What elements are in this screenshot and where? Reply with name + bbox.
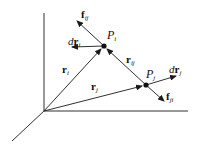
label-dr-j: drj: [169, 63, 181, 77]
y-axis: [12, 111, 44, 141]
vector-f-ij: [77, 21, 104, 46]
label-p-i: Pi: [106, 28, 116, 43]
label-f-ij: fij: [81, 8, 89, 22]
particle-pj-dot: [143, 82, 148, 87]
label-dr-i: dri: [68, 35, 80, 49]
label-r-ij: rij: [126, 53, 135, 67]
label-f-ji: fji: [166, 90, 174, 104]
coordinate-axes: [12, 13, 188, 141]
particle-pi-dot: [101, 43, 106, 48]
particle-vector-diagram: fij dri Pi rij ri Pj drj rj fji: [0, 0, 201, 145]
label-r-j: rj: [91, 80, 98, 94]
label-p-j: Pj: [145, 67, 155, 82]
label-r-i: ri: [62, 63, 69, 77]
vector-f-ji: [146, 85, 164, 101]
